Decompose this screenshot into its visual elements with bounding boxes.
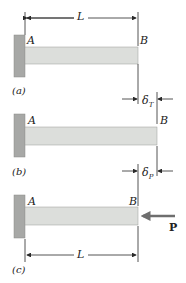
delta-symbol: δ: [142, 94, 149, 107]
dimension-label-l-a: L: [77, 11, 84, 22]
bar: [25, 47, 138, 64]
delta-symbol: δ: [142, 166, 149, 179]
wall-support: [14, 35, 25, 77]
panel-a: [14, 12, 138, 104]
force-label: P: [169, 222, 177, 233]
panel-label-a: (a): [12, 86, 26, 96]
panel-c: [14, 183, 175, 262]
delta-p-label: δP: [142, 167, 153, 181]
panel-label-b: (b): [12, 167, 26, 177]
point-b-label-b: B: [160, 115, 168, 126]
wall-support: [14, 114, 25, 157]
delta-subscript: P: [149, 173, 154, 181]
panel-b: [14, 92, 157, 183]
delta-subscript: T: [149, 101, 154, 109]
wall-support: [14, 195, 25, 238]
point-b-label-c: B: [129, 196, 137, 207]
bar: [25, 207, 138, 225]
point-a-label-b: A: [28, 115, 36, 126]
dimension-label-l-c: L: [77, 249, 84, 260]
panel-label-c: (c): [12, 265, 25, 275]
point-a-label-c: A: [28, 196, 36, 207]
point-b-label-a: B: [140, 35, 148, 46]
bar: [25, 127, 157, 145]
point-a-label-a: A: [27, 35, 35, 46]
delta-t-label: δT: [142, 95, 153, 109]
